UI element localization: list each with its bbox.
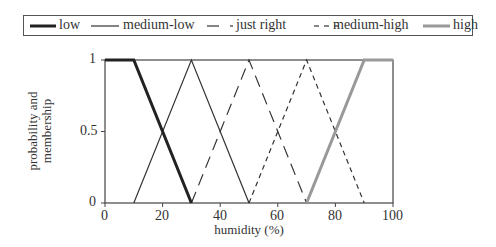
x-tick-20: 20 xyxy=(155,208,169,224)
series-high xyxy=(307,60,393,203)
x-tick-0: 0 xyxy=(101,208,108,224)
x-axis-label: humidity (%) xyxy=(214,222,284,238)
series-just-right xyxy=(191,60,306,203)
x-tick-80: 80 xyxy=(328,208,342,224)
y-tick-0.5: 0.5 xyxy=(80,123,98,139)
y-tick-0: 0 xyxy=(89,194,96,210)
y-tick-1: 1 xyxy=(89,51,96,67)
series-medium-high xyxy=(249,60,364,203)
series-low xyxy=(105,60,191,203)
plot-area xyxy=(0,0,496,247)
series-medium-low xyxy=(134,60,249,203)
x-tick-100: 100 xyxy=(382,208,403,224)
